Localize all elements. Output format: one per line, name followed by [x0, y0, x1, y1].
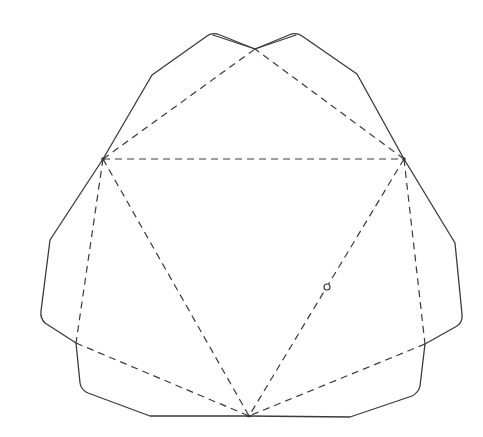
fold-line-top-right: [255, 49, 404, 159]
right-flap-edge: [404, 159, 462, 344]
fold-line-right-vertical: [404, 159, 425, 344]
fold-lines: [76, 49, 425, 416]
fold-line-bottom-left: [76, 343, 249, 416]
fold-line-left-diagonal: [103, 159, 249, 416]
fold-line-top-left: [103, 49, 255, 159]
fold-pattern-diagram: [0, 0, 483, 437]
diagram-svg: [0, 0, 483, 437]
fold-line-left-vertical: [76, 159, 103, 343]
vertex-points: [101, 157, 406, 417]
fold-line-bottom-right: [249, 344, 425, 416]
vertex-left: [101, 157, 105, 161]
vertex-bottom: [246, 415, 252, 418]
top-left-flap-edge: [103, 34, 296, 159]
left-flap-edge: [41, 159, 103, 343]
vertex-right: [402, 157, 406, 161]
top-right-flap-edge: [213, 34, 404, 159]
cut-outline: [41, 34, 462, 417]
circle-marker-icon: [324, 284, 330, 290]
